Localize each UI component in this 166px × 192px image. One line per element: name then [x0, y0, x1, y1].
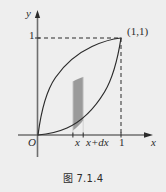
x-tick-label-x: x [75, 137, 80, 148]
origin-label: O [28, 137, 36, 148]
x-tick-label-one: 1 [119, 137, 125, 148]
figure-caption: 图 7.1.4 [0, 170, 166, 185]
intersection-point-label: (1,1) [127, 26, 148, 37]
x-axis-label: x [151, 137, 156, 148]
x-tick-label-x-plus-dx: x+dx [86, 137, 109, 148]
y-tick-label-one: 1 [29, 30, 35, 41]
figure-container: y x O 1 x x+dx 1 (1,1) 图 7.1.4 [0, 0, 166, 192]
y-axis-label: y [26, 8, 31, 19]
y-axis-arrowhead [35, 10, 40, 18]
